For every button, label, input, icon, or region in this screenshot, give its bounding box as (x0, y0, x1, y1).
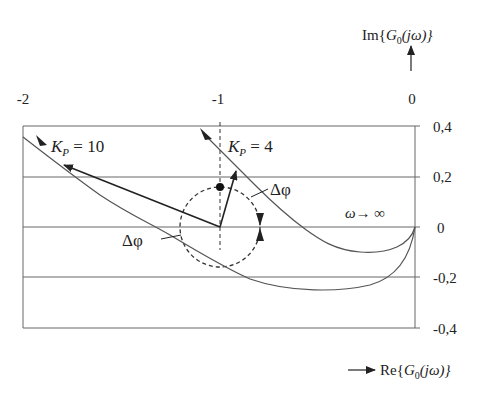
delta-phi-right-label: Δφ (270, 180, 291, 199)
re-axis-label: Re{G0(jω)} (380, 362, 450, 381)
y-tick-0.2: 0,2 (433, 169, 452, 185)
circle-arrow-down-icon (256, 213, 264, 226)
grid (23, 126, 420, 328)
x-tick-0: 0 (408, 91, 416, 107)
y-tick-0.4: 0,4 (433, 119, 452, 135)
direction-arrow-kp4-icon (200, 128, 212, 140)
kp4-label: KP = 4 (227, 137, 273, 158)
nyquist-plot: -2 -1 0 0,4 0,2 0 -0,2 -0,4 Im{G0(jω)} R… (0, 0, 481, 398)
vector-kp10-arrow (64, 165, 220, 227)
kp10-label: KP = 10 (50, 137, 104, 158)
x-tick-neg1: -1 (212, 91, 225, 107)
im-axis-label: Im{G0(jω)} (362, 27, 432, 46)
direction-arrow-kp10-icon (36, 135, 47, 146)
y-tick-neg0.4: -0,4 (433, 321, 457, 337)
reference-dot (216, 183, 224, 191)
vector-kp4-arrow (220, 171, 236, 227)
y-tick-0: 0 (437, 220, 445, 236)
delta-phi-left-label: Δφ (122, 231, 143, 250)
x-tick-neg2: -2 (17, 91, 30, 107)
circle-arrow-up-icon (256, 228, 264, 241)
omega-infinity-label: ω→ ∞ (345, 205, 385, 221)
y-tick-neg0.2: -0,2 (433, 270, 457, 286)
